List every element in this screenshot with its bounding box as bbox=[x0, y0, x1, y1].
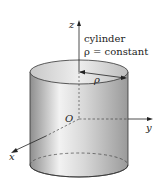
y-arrow-icon bbox=[147, 117, 153, 121]
y-label: y bbox=[145, 122, 152, 133]
z-label: z bbox=[68, 19, 75, 30]
x-label: x bbox=[9, 151, 15, 162]
origin-label: O bbox=[65, 113, 73, 124]
cylinder-diagram: z cylinder ρ = constant ρ O y x bbox=[0, 0, 168, 188]
title-line1: cylinder bbox=[84, 33, 125, 44]
cylinder-side bbox=[30, 72, 128, 177]
z-arrow-icon bbox=[77, 20, 81, 26]
radius-label: ρ bbox=[93, 74, 100, 85]
title-line2: ρ = constant bbox=[84, 46, 148, 57]
